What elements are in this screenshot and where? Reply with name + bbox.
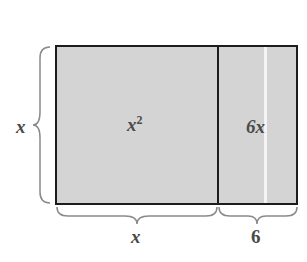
bottom-right-brace-icon: [219, 207, 297, 224]
square-area-label: x2: [127, 113, 143, 136]
bottom-left-label: x: [131, 226, 141, 248]
bottom-right-label: 6: [251, 226, 261, 248]
square-label-base: x: [127, 114, 137, 135]
bottom-left-brace-icon: [57, 207, 217, 224]
left-side-label: x: [16, 116, 26, 138]
left-brace-icon: [33, 47, 50, 203]
strip-area-label: 6x: [246, 116, 265, 138]
square-label-exponent: 2: [137, 113, 143, 127]
